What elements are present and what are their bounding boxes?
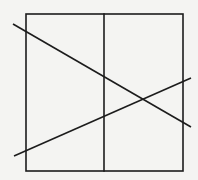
diagram-svg xyxy=(0,0,198,180)
geometry-diagram xyxy=(0,0,198,180)
descending-diagonal-line xyxy=(13,24,191,127)
ascending-diagonal-line xyxy=(14,78,191,156)
